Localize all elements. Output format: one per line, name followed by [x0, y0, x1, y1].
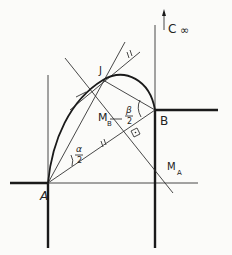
line-a-j	[48, 42, 125, 183]
label-beta-den: 2	[127, 117, 132, 126]
label-mb-sub: B	[107, 120, 112, 128]
angle-alpha-arc	[71, 155, 73, 166]
right-angle-dot	[135, 132, 137, 134]
tick-mark	[130, 50, 132, 56]
label-ma: M	[167, 161, 176, 172]
label-a: A	[39, 189, 48, 203]
angle-beta-arc	[138, 100, 141, 117]
label-alpha-den: 2	[77, 156, 82, 165]
arc-a-j-b	[48, 75, 155, 183]
label-infinity: ∞	[180, 24, 189, 37]
label-j: J	[98, 65, 102, 76]
tick-mark	[127, 52, 129, 58]
label-alpha: α	[76, 144, 82, 154]
diagram-canvas: A B J M B M A α 2 β 2 C ∞	[0, 0, 232, 255]
label-b: B	[160, 114, 168, 128]
label-c: C	[168, 22, 176, 36]
arrow-up-icon	[162, 9, 166, 16]
label-ma-sub: A	[177, 169, 182, 177]
line-j-ma	[65, 58, 173, 193]
geometry-diagram: A B J M B M A α 2 β 2 C ∞	[0, 0, 232, 255]
label-beta: β	[125, 105, 132, 115]
